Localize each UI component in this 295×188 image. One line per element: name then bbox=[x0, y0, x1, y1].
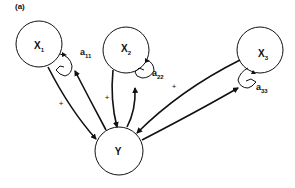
edge-sign-x1: + bbox=[59, 99, 64, 108]
edge-sign-x2: + bbox=[105, 93, 110, 102]
self-loop-x1 bbox=[56, 54, 72, 76]
edge-x2-to-y bbox=[112, 70, 117, 127]
edge-y-to-x1 bbox=[75, 71, 106, 130]
coefficient-a22: a22 bbox=[152, 68, 164, 80]
diagram-canvas bbox=[0, 0, 295, 188]
node-label-x1: X1 bbox=[34, 40, 44, 53]
edge-y-to-x2 bbox=[127, 88, 135, 127]
node-label-x2: X2 bbox=[121, 43, 131, 56]
coefficient-a11: a11 bbox=[80, 47, 91, 59]
panel-label: (a) bbox=[15, 2, 25, 11]
edge-sign-x3: + bbox=[172, 82, 177, 91]
diagram: (a) X1 X2 X3 Y a11 a22 a33 + + + bbox=[0, 0, 295, 188]
node-label-y: Y bbox=[115, 146, 122, 157]
coefficient-a33: a33 bbox=[256, 82, 268, 94]
node-label-x3: X3 bbox=[258, 48, 268, 61]
edge-x1-to-y bbox=[48, 67, 96, 139]
